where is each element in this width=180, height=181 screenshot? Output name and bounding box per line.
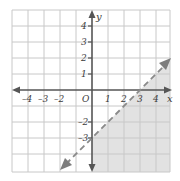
y-tick-label-2: 2 [81, 54, 87, 63]
x-tick-label-2: 2 [121, 95, 127, 104]
x-axis-left-arrow [12, 87, 20, 94]
x-tick-label--4: –4 [22, 95, 32, 104]
x-tick-label-4: 4 [153, 95, 159, 104]
y-tick-label--2: –2 [78, 118, 88, 127]
y-axis-up-arrow [89, 10, 96, 18]
x-tick-label-3: 3 [137, 95, 143, 104]
x-tick-label--2: –2 [54, 95, 64, 104]
shaded-region [92, 60, 170, 172]
x-axis-label: x [167, 94, 173, 104]
origin-label: O [82, 95, 89, 104]
y-tick-label--3: –3 [78, 134, 88, 143]
y-tick-label-1: 1 [81, 70, 87, 79]
y-axis-label: y [96, 12, 102, 22]
x-tick-label-1: 1 [105, 95, 111, 104]
x-tick-label--3: –3 [38, 95, 48, 104]
y-tick-label-4: 4 [81, 22, 87, 31]
y-tick-label-3: 3 [81, 38, 87, 47]
coordinate-plane-figure [0, 0, 180, 181]
